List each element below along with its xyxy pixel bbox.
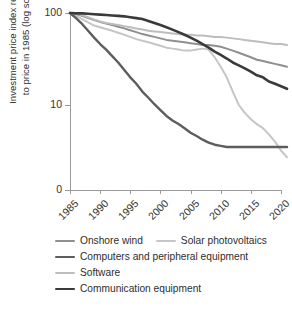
legend-row: Onshore windSolar photovoltaics xyxy=(55,233,292,249)
legend-label: Computers and peripheral equipment xyxy=(80,251,248,263)
legend-swatch-icon xyxy=(156,240,176,242)
legend-item-software[interactable]: Software xyxy=(55,267,120,279)
legend-swatch-icon xyxy=(55,240,75,242)
price-index-line-chart: Investment price index relative to price… xyxy=(0,0,292,314)
legend-row: Communication equipment xyxy=(55,281,292,297)
legend-item-solar-photovoltaics[interactable]: Solar photovoltaics xyxy=(156,235,267,247)
legend-swatch-icon xyxy=(55,256,75,258)
legend-item-onshore-wind[interactable]: Onshore wind xyxy=(55,235,143,247)
legend-row: Software xyxy=(55,265,292,281)
legend-label: Software xyxy=(80,267,120,279)
series-line-communication-equipment xyxy=(70,13,287,89)
legend-swatch-icon xyxy=(55,288,75,290)
legend-label: Communication equipment xyxy=(80,283,201,295)
chart-legend: Onshore windSolar photovoltaicsComputers… xyxy=(55,233,292,297)
legend-item-computers-and-peripheral-equipment[interactable]: Computers and peripheral equipment xyxy=(55,251,248,263)
legend-swatch-icon xyxy=(55,272,75,274)
legend-label: Onshore wind xyxy=(80,235,143,247)
legend-row: Computers and peripheral equipment xyxy=(55,249,292,265)
legend-label: Solar photovoltaics xyxy=(181,235,267,247)
legend-item-communication-equipment[interactable]: Communication equipment xyxy=(55,283,201,295)
